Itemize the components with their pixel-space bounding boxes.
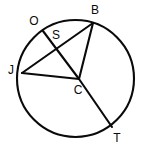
- segment-JC: [22, 73, 79, 79]
- segment-CT: [79, 79, 112, 127]
- label-point-O: O: [29, 14, 38, 28]
- label-point-S: S: [52, 28, 60, 42]
- geometry-diagram: O B S J C T: [0, 0, 144, 151]
- label-point-B: B: [91, 3, 99, 17]
- label-point-T: T: [113, 131, 121, 145]
- circle-diagram-svg: O B S J C T: [0, 0, 144, 151]
- label-point-C: C: [74, 83, 83, 97]
- label-point-J: J: [8, 63, 14, 77]
